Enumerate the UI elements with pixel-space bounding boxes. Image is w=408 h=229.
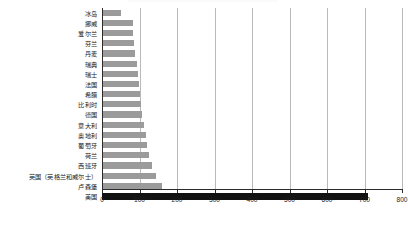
category-label-row: 挪威 xyxy=(0,18,100,28)
category-label: 奥地利 xyxy=(78,132,97,139)
category-label-row: 葡萄牙 xyxy=(0,140,100,150)
category-label-row: 英国（英格兰和威尔士） xyxy=(0,171,100,181)
bar-row xyxy=(102,39,402,49)
category-label-row: 德国 xyxy=(0,110,100,120)
bar xyxy=(102,111,142,117)
bar-row xyxy=(102,18,402,28)
bar-row xyxy=(102,151,402,161)
bar-row xyxy=(102,69,402,79)
bar xyxy=(102,132,146,138)
x-axis-tick xyxy=(252,189,253,193)
bar-row xyxy=(102,90,402,100)
bar-row xyxy=(102,59,402,69)
category-label-row: 比利时 xyxy=(0,100,100,110)
category-label-row: 瑞士 xyxy=(0,69,100,79)
bar-row xyxy=(102,130,402,140)
bar xyxy=(102,30,133,36)
bar xyxy=(102,91,140,97)
x-axis-tick-label: 200 xyxy=(171,196,182,203)
bar xyxy=(102,152,149,158)
bar-row xyxy=(102,79,402,89)
bar-row xyxy=(102,110,402,120)
x-axis-tick-labels: 0100200300400500600700800 xyxy=(102,196,402,212)
category-label: 瑞典 xyxy=(85,61,97,68)
category-label: 荷兰 xyxy=(85,152,97,159)
x-axis-tick-label: 400 xyxy=(246,196,257,203)
bar xyxy=(102,122,144,128)
category-axis-labels: 冰岛挪威爱尔兰芬兰丹麦瑞典瑞士法国希腊比利时德国意大利奥地利葡萄牙荷兰西班牙英国… xyxy=(0,8,100,202)
category-label-row: 西班牙 xyxy=(0,161,100,171)
bar-row xyxy=(102,28,402,38)
x-axis-tick-label: 600 xyxy=(321,196,332,203)
bar-row xyxy=(102,49,402,59)
bar xyxy=(102,40,134,46)
category-label: 西班牙 xyxy=(78,162,97,169)
bar xyxy=(102,10,121,16)
category-label: 丹麦 xyxy=(85,50,97,57)
x-axis-tick xyxy=(140,189,141,193)
x-axis-tick xyxy=(102,189,103,193)
category-label-row: 卢森堡 xyxy=(0,181,100,191)
category-label: 法国 xyxy=(85,81,97,88)
bar xyxy=(102,173,156,179)
category-label-row: 希腊 xyxy=(0,90,100,100)
x-axis-tick-label: 300 xyxy=(209,196,220,203)
gridline xyxy=(402,8,403,189)
category-label-row: 冰岛 xyxy=(0,8,100,18)
bar xyxy=(102,81,139,87)
category-label-row: 爱尔兰 xyxy=(0,28,100,38)
category-label: 挪威 xyxy=(85,20,97,27)
category-label: 卢森堡 xyxy=(78,183,97,190)
category-label: 瑞士 xyxy=(85,71,97,78)
category-label: 比利时 xyxy=(78,101,97,108)
x-axis-tick xyxy=(402,189,403,193)
bar-row xyxy=(102,171,402,181)
bar-row xyxy=(102,140,402,150)
bar-row xyxy=(102,100,402,110)
bar xyxy=(102,61,137,67)
x-axis-tick xyxy=(215,189,216,193)
bar xyxy=(102,20,133,26)
bar xyxy=(102,101,141,107)
bar-rows xyxy=(102,8,402,202)
category-label: 葡萄牙 xyxy=(78,142,97,149)
bar xyxy=(102,71,138,77)
bar xyxy=(102,142,147,148)
category-label-row: 法国 xyxy=(0,79,100,89)
category-label: 芬兰 xyxy=(85,40,97,47)
bar-row xyxy=(102,161,402,171)
category-label: 爱尔兰 xyxy=(78,30,97,37)
category-label: 意大利 xyxy=(78,122,97,129)
category-label: 美国 xyxy=(85,193,97,200)
category-label: 德国 xyxy=(85,111,97,118)
y-axis-line xyxy=(102,8,103,189)
scan-artifact xyxy=(128,0,278,3)
x-axis-tick-label: 700 xyxy=(359,196,370,203)
category-label-row: 荷兰 xyxy=(0,151,100,161)
category-label-row: 奥地利 xyxy=(0,130,100,140)
x-axis-tick-label: 500 xyxy=(284,196,295,203)
category-label-row: 意大利 xyxy=(0,120,100,130)
category-label-row: 瑞典 xyxy=(0,59,100,69)
category-label: 冰岛 xyxy=(85,10,97,17)
bar-row xyxy=(102,120,402,130)
category-label-row: 美国 xyxy=(0,191,100,201)
bar xyxy=(102,50,135,56)
category-label-row: 丹麦 xyxy=(0,49,100,59)
category-label: 希腊 xyxy=(85,91,97,98)
category-label: 英国（英格兰和威尔士） xyxy=(29,173,97,180)
plot-area xyxy=(102,8,402,195)
category-label-row: 芬兰 xyxy=(0,39,100,49)
bar xyxy=(102,162,152,168)
bar-row xyxy=(102,8,402,18)
x-axis-tick-label: 100 xyxy=(134,196,145,203)
x-axis-tick-label: 800 xyxy=(396,196,407,203)
x-axis-tick xyxy=(365,189,366,193)
x-axis-tick xyxy=(290,189,291,193)
x-axis-tick-label: 0 xyxy=(100,196,104,203)
x-axis-tick xyxy=(327,189,328,193)
x-axis-tick xyxy=(177,189,178,193)
